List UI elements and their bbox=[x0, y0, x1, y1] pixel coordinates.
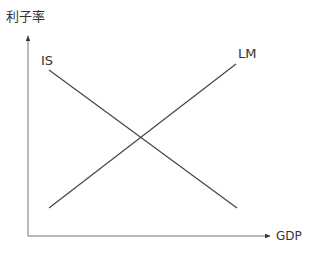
is-label: IS bbox=[41, 54, 53, 67]
is-curve bbox=[49, 70, 237, 208]
x-axis-label: GDP bbox=[276, 230, 302, 242]
is-lm-diagram bbox=[0, 0, 316, 255]
lm-label: LM bbox=[238, 47, 256, 60]
y-axis-label: 利子率 bbox=[6, 10, 45, 23]
